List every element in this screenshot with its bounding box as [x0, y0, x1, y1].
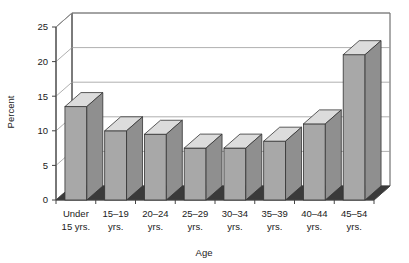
y-axis-title: Percent — [5, 95, 16, 128]
y-tick-label: 10 — [37, 125, 48, 136]
bar — [65, 93, 103, 200]
bar-chart: 0510152025 Under15 yrs.15–19yrs.20–24yrs… — [0, 0, 409, 263]
x-tick-label: Under — [63, 208, 89, 219]
x-tick-label: 25–29 — [182, 208, 208, 219]
x-tick-label: yrs. — [187, 221, 202, 232]
x-tick-label: 45–54 — [341, 208, 367, 219]
x-tick-label: 15–19 — [102, 208, 128, 219]
bar — [184, 134, 222, 200]
x-axis-title-text: Age — [196, 247, 213, 258]
bar — [303, 110, 341, 200]
y-tick-label: 15 — [37, 91, 48, 102]
x-tick-label: yrs. — [108, 221, 123, 232]
x-tick-label: 20–24 — [142, 208, 168, 219]
x-tick-label: yrs. — [307, 221, 322, 232]
y-tick-label: 0 — [43, 194, 48, 205]
bar — [105, 117, 143, 200]
x-tick-label: yrs. — [267, 221, 282, 232]
x-tick-label: yrs. — [227, 221, 242, 232]
x-tick-label: 35–39 — [261, 208, 287, 219]
x-tick-label: yrs. — [346, 221, 361, 232]
x-tick-label: yrs. — [148, 221, 163, 232]
y-tick-label: 5 — [43, 160, 48, 171]
bar — [264, 127, 302, 200]
y-axis-title-text: Percent — [5, 95, 16, 128]
x-axis-title: Age — [196, 247, 213, 258]
x-tick-label: 30–34 — [222, 208, 248, 219]
y-tick-label: 25 — [37, 21, 48, 32]
y-tick-label: 20 — [37, 56, 48, 67]
chart-canvas: 0510152025 Under15 yrs.15–19yrs.20–24yrs… — [0, 0, 409, 263]
bar — [343, 41, 381, 200]
bar — [224, 134, 262, 200]
x-tick-label: 40–44 — [301, 208, 327, 219]
x-tick-label: 15 yrs. — [62, 221, 91, 232]
bar — [144, 120, 182, 200]
